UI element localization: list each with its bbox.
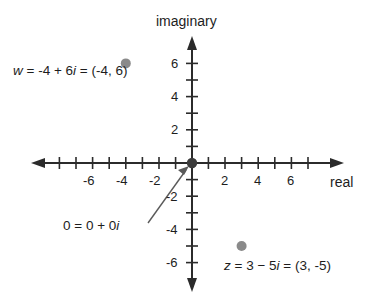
- y-tick-label-4: 4: [171, 90, 178, 103]
- y-tick-label-neg2: -2: [166, 190, 177, 203]
- x-tick-label-neg4: -4: [116, 174, 127, 187]
- x-tick-label-6: 6: [287, 174, 294, 187]
- point-origin: [187, 158, 197, 168]
- complex-plane-figure: imaginary real 6 4 2 -2 -4 -6 -6 -4 -2 2…: [0, 0, 371, 305]
- origin-point-label: 0 = 0 + 0i: [63, 219, 119, 233]
- x-tick-label-2: 2: [221, 174, 228, 187]
- w-point-label: w = -4 + 6i = (-4, 6): [13, 64, 127, 78]
- origin-imaginary-unit: i: [116, 218, 119, 233]
- point-z: [237, 241, 247, 251]
- real-axis-label: real: [330, 175, 353, 189]
- y-tick-label-6: 6: [171, 57, 178, 70]
- x-tick-label-neg2: -2: [149, 174, 160, 187]
- z-expression-2: = (3, -5): [280, 258, 331, 273]
- x-tick-label-neg6: -6: [83, 174, 94, 187]
- w-variable: w: [13, 63, 23, 78]
- z-expression-1: = 3 − 5: [231, 258, 277, 273]
- w-expression-2: = (-4, 6): [76, 63, 127, 78]
- x-tick-label-4: 4: [254, 174, 261, 187]
- origin-expression: 0 = 0 + 0: [63, 218, 116, 233]
- y-tick-label-neg6: -6: [166, 256, 177, 269]
- y-tick-label-neg4: -4: [166, 223, 177, 236]
- w-expression-1: = -4 + 6: [23, 63, 73, 78]
- z-point-label: z = 3 − 5i = (3, -5): [224, 259, 331, 273]
- imaginary-axis-label: imaginary: [156, 14, 217, 28]
- z-variable: z: [224, 258, 231, 273]
- y-tick-label-2: 2: [171, 123, 178, 136]
